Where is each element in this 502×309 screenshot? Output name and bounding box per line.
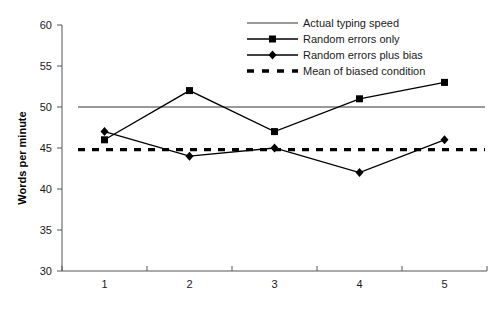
data-point-diamond-marker [186,152,194,161]
data-point-square-marker [269,36,276,43]
y-axis-ticks: 30354045505560 [40,19,62,277]
x-tick-label: 1 [101,278,107,290]
data-point-square-marker [101,136,108,143]
y-tick-label: 35 [40,224,52,236]
line-chart-plot: Words per minute 30354045505560 12345 Ac… [0,0,502,309]
y-tick-label: 45 [40,142,52,154]
legend-item-label: Mean of biased condition [303,65,425,77]
data-point-square-marker [441,79,448,86]
data-point-diamond-marker [101,127,109,136]
series-data-markers [101,79,449,177]
legend-item: Mean of biased condition [247,65,425,77]
y-tick-label: 60 [40,19,52,31]
legend-item-label: Actual typing speed [303,17,399,29]
y-axis-title: Words per minute [16,111,28,204]
legend-item: Actual typing speed [247,17,399,29]
legend-item: Random errors only [247,33,400,45]
x-tick-label: 4 [356,278,362,290]
data-point-diamond-marker [269,51,277,60]
chart-legend: Actual typing speedRandom errors onlyRan… [247,17,425,77]
legend-item: Random errors plus bias [247,49,423,61]
legend-item-label: Random errors plus bias [303,49,423,61]
x-axis-ticks: 12345 [62,266,487,290]
series-data-lines [105,82,445,172]
y-tick-label: 30 [40,265,52,277]
y-tick-label: 55 [40,60,52,72]
data-point-diamond-marker [441,135,449,144]
data-point-square-marker [356,95,363,102]
data-point-square-marker [271,128,278,135]
y-tick-label: 50 [40,101,52,113]
data-point-diamond-marker [356,168,364,177]
data-point-square-marker [186,87,193,94]
legend-item-label: Random errors only [303,33,400,45]
y-tick-label: 40 [40,183,52,195]
x-tick-label: 5 [441,278,447,290]
chart-figure: Words per minute 30354045505560 12345 Ac… [0,0,502,309]
x-tick-label: 3 [271,278,277,290]
x-tick-label: 2 [186,278,192,290]
